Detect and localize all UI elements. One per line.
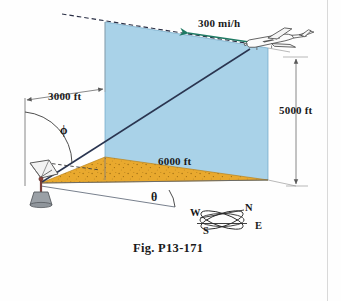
label-angle-theta: θ [151,191,157,203]
label-angle-phi: ϕ [60,124,68,136]
label-horizontal-offset: 3000 ft [48,91,81,102]
airplane-icon [244,28,314,50]
label-altitude: 5000 ft [279,105,312,116]
label-velocity: 300 mi/h [198,18,240,29]
figure-container: 300 mi/h 3000 ft 5000 ft 6000 ft ϕ θ W N… [0,0,341,301]
compass-label-north: N [245,203,253,214]
radar-dish-icon [30,160,58,208]
page-edge-line [327,0,328,301]
dimension-3000ft [27,22,105,100]
compass-label-south: S [203,226,209,237]
compass-label-east: E [255,221,262,232]
label-ground-range: 6000 ft [158,156,191,167]
angle-theta-arc [169,190,175,207]
figure-caption: Fig. P13-171 [133,242,203,255]
figure-canvas [0,0,341,301]
compass-label-west: W [190,208,201,219]
dimension-5000ft [268,48,308,186]
